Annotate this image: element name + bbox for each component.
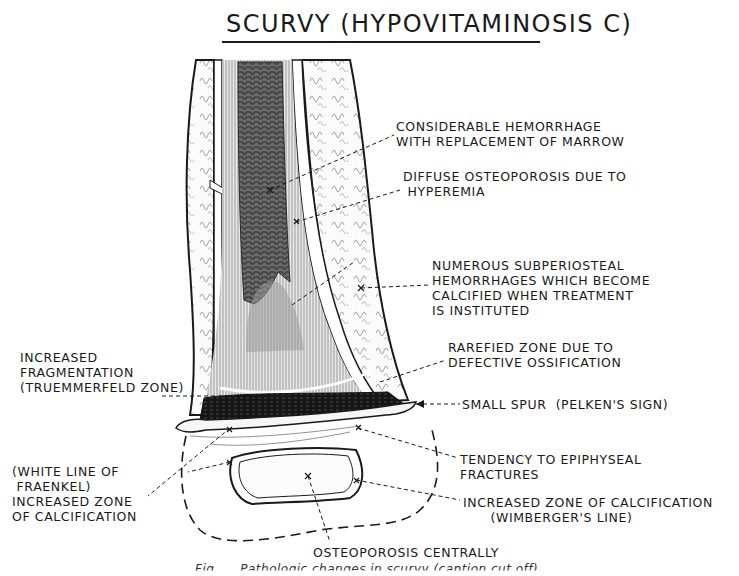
label-wimberger-line: INCREASED ZONE OF CALCIFICATION (WIMBERG… <box>463 495 713 525</box>
label-truemmerfeld-zone: INCREASED FRAGMENTATION (TRUEMMERFELD ZO… <box>20 350 184 395</box>
label-diffuse-osteoporosis: DIFFUSE OSTEOPOROSIS DUE TO HYPEREMIA <box>403 169 627 199</box>
label-rarefied-zone: RAREFIED ZONE DUE TO DEFECTIVE OSSIFICAT… <box>448 340 621 370</box>
left-cortex <box>187 60 214 415</box>
label-osteoporosis-centrally: OSTEOPOROSIS CENTRALLY <box>313 545 499 560</box>
label-white-line-fraenkel: (WHITE LINE OF FRAENKEL) INCREASED ZONE … <box>12 464 137 524</box>
label-marrow-hemorrhage: CONSIDERABLE HEMORRHAGE WITH REPLACEMENT… <box>396 119 625 149</box>
label-epiphyseal-fractures: TENDENCY TO EPIPHYSEAL FRACTURES <box>460 452 642 482</box>
label-subperiosteal-hemorrhages: NUMEROUS SUBPERIOSTEAL HEMORRHAGES WHICH… <box>432 258 650 318</box>
label-small-spur: SMALL SPUR (PELKEN'S SIGN) <box>462 397 668 412</box>
